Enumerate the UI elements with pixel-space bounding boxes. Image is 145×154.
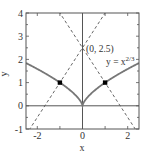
- tick-labels: -202-101234: [15, 8, 131, 142]
- curve-label-base: y = x: [106, 57, 126, 67]
- x-tick-label: 0: [80, 130, 85, 141]
- point-marker: [103, 80, 107, 84]
- annotation-curve-label: y = x2/3: [106, 55, 135, 67]
- y-tick-label: 1: [18, 77, 23, 88]
- y-tick-label: 3: [18, 31, 23, 42]
- x-tick-label: -2: [33, 130, 41, 141]
- curve-label-exponent: 2/3: [126, 55, 135, 63]
- annotation-intercept: (0, 2.5): [86, 44, 114, 55]
- y-tick-label: -1: [15, 124, 23, 135]
- chart: -202-101234 x y (0, 2.5) y = x2/3: [0, 0, 145, 154]
- y-axis-label: y: [0, 72, 9, 77]
- point-marker: [58, 80, 62, 84]
- plot-area: [26, 0, 139, 135]
- y-tick-label: 2: [18, 54, 23, 65]
- y-tick-label: 0: [18, 100, 23, 111]
- y-tick-label: 4: [18, 8, 23, 19]
- x-axis-label: x: [80, 142, 85, 153]
- x-tick-label: 2: [125, 130, 130, 141]
